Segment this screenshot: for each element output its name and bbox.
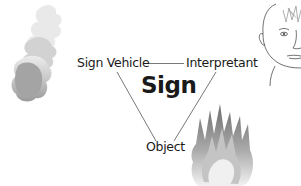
node-object: Object [146, 139, 185, 154]
smoke-icon [12, 5, 62, 101]
diagram-title: Sign [141, 72, 196, 98]
fire-icon [192, 104, 253, 186]
node-interpretant: Interpretant [186, 55, 258, 70]
face-icon [259, 4, 301, 86]
node-sign-vehicle: Sign Vehicle [77, 55, 149, 70]
semiotic-triangle-diagram: Sign Vehicle Interpretant Sign Object [0, 0, 301, 186]
